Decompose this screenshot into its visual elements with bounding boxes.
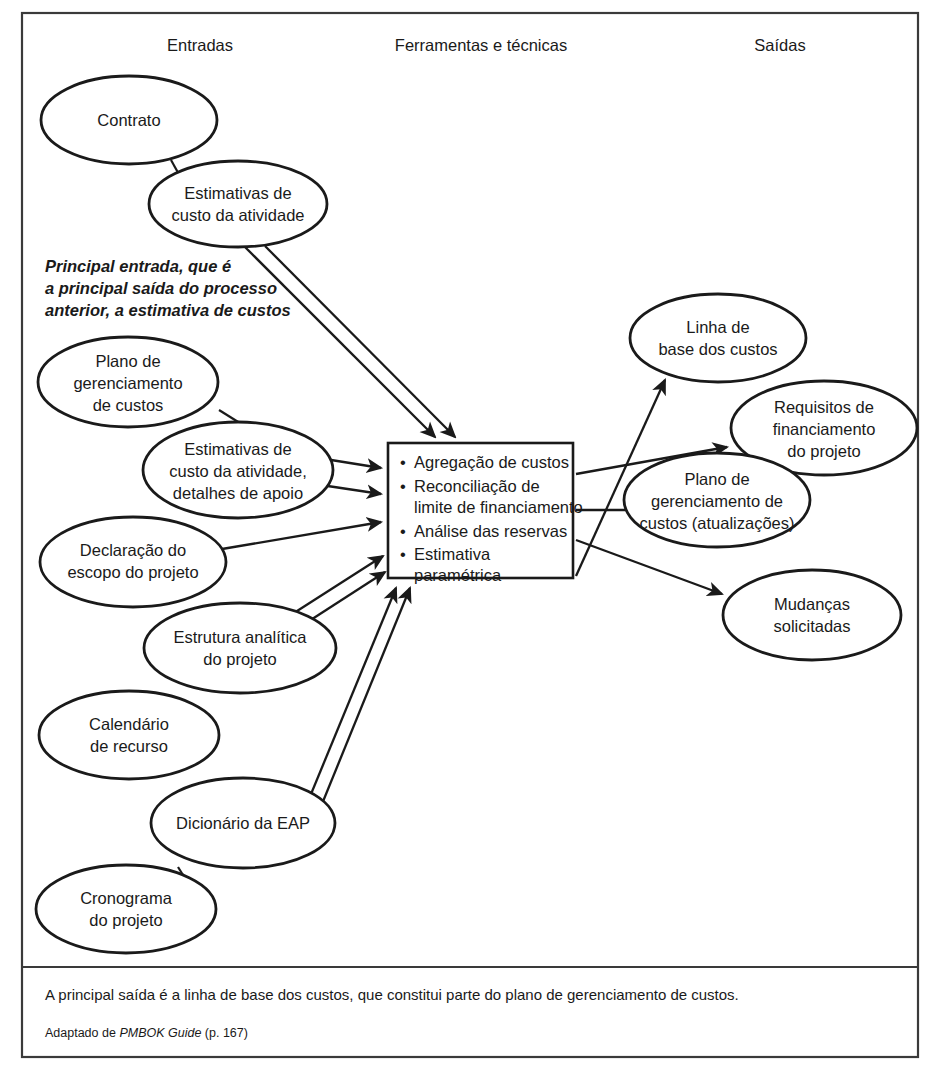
- ellipse-mudancas-solicitadas: [723, 570, 901, 660]
- annotation-line-2: a principal saída do processo: [45, 279, 277, 297]
- node-declaracao-escopo-line-2: escopo do projeto: [67, 563, 198, 581]
- node-linha-base-custos[interactable]: Linha de base dos custos: [630, 294, 806, 382]
- node-contrato-line-1: Contrato: [97, 111, 160, 129]
- footer-source-title: PMBOK Guide: [119, 1026, 201, 1040]
- ellipse-linha-base-custos: [630, 294, 806, 382]
- node-dicionario-eap-line-1: Dicionário da EAP: [176, 814, 310, 832]
- process-box[interactable]: • Agregação de custos • Reconciliação de…: [388, 443, 583, 584]
- process-flow-diagram: Entradas Ferramentas e técnicas Saídas: [0, 0, 943, 1081]
- node-linha-base-custos-line-1: Linha de: [686, 318, 749, 336]
- footer-source-suffix: (p. 167): [201, 1026, 248, 1040]
- node-plano-gerenciamento-custos-line-1: Plano de: [95, 352, 160, 370]
- node-estimativas-detalhes-apoio-line-3: detalhes de apoio: [173, 484, 303, 502]
- node-cronograma-projeto[interactable]: Cronograma do projeto: [36, 865, 216, 953]
- node-estimativas-detalhes-apoio-line-2: custo da atividade,: [169, 462, 307, 480]
- process-bullet-1-marker: •: [400, 453, 406, 471]
- process-bullet-4-line-2: paramétrica: [414, 566, 502, 584]
- node-cronograma-projeto-line-2: do projeto: [89, 911, 162, 929]
- process-bullet-2-line-1: Reconciliação de: [414, 477, 540, 495]
- footer-caption: A principal saída é a linha de base dos …: [45, 986, 739, 1003]
- process-bullet-4-marker: •: [400, 545, 406, 563]
- node-calendario-recurso-line-1: Calendário: [89, 715, 169, 733]
- node-requisitos-financiamento-line-1: Requisitos de: [774, 398, 874, 416]
- node-estimativas-custo-atividade[interactable]: Estimativas de custo da atividade: [149, 161, 327, 247]
- node-estimativas-detalhes-apoio[interactable]: Estimativas de custo da atividade, detal…: [143, 422, 333, 518]
- figure-container: Entradas Ferramentas e técnicas Saídas: [0, 0, 943, 1081]
- node-mudancas-solicitadas[interactable]: Mudanças solicitadas: [723, 570, 901, 660]
- process-bullet-3-line-1: Análise das reservas: [414, 522, 567, 540]
- node-contrato[interactable]: Contrato: [41, 76, 217, 164]
- process-bullet-2-line-2: limite de financiamento: [414, 498, 583, 516]
- footer-source: Adaptado de PMBOK Guide (p. 167): [45, 1026, 248, 1040]
- node-estimativas-detalhes-apoio-line-1: Estimativas de: [184, 440, 291, 458]
- node-calendario-recurso[interactable]: Calendário de recurso: [39, 691, 219, 779]
- annotation-line-3: anterior, a estimativa de custos: [45, 301, 291, 319]
- ellipse-calendario-recurso: [39, 691, 219, 779]
- node-cronograma-projeto-line-1: Cronograma: [80, 889, 173, 907]
- node-mudancas-solicitadas-line-1: Mudanças: [774, 595, 850, 613]
- ellipse-estimativas-custo-atividade: [149, 161, 327, 247]
- footer-source-prefix: Adaptado de: [45, 1026, 119, 1040]
- node-plano-gerenciamento-atualizacoes-line-2: gerenciamento de: [651, 492, 783, 510]
- node-requisitos-financiamento-line-2: financiamento: [773, 420, 876, 438]
- process-bullet-3-marker: •: [400, 522, 406, 540]
- process-bullet-4-line-1: Estimativa: [414, 545, 491, 563]
- annotation-line-1: Principal entrada, que é: [45, 257, 231, 275]
- column-header-ferramentas: Ferramentas e técnicas: [395, 36, 567, 54]
- node-requisitos-financiamento-line-3: do projeto: [787, 442, 860, 460]
- node-estimativas-custo-atividade-line-2: custo da atividade: [171, 206, 304, 224]
- node-estimativas-custo-atividade-line-1: Estimativas de: [184, 184, 291, 202]
- node-plano-gerenciamento-atualizacoes-line-3: custos (atualizações): [640, 514, 795, 532]
- ellipse-cronograma-projeto: [36, 865, 216, 953]
- node-declaracao-escopo-line-1: Declaração do: [80, 541, 186, 559]
- node-linha-base-custos-line-2: base dos custos: [658, 340, 777, 358]
- node-plano-gerenciamento-custos[interactable]: Plano de gerenciamento de custos: [38, 337, 218, 427]
- node-declaracao-escopo[interactable]: Declaração do escopo do projeto: [40, 517, 226, 607]
- process-bullet-2-marker: •: [400, 477, 406, 495]
- node-plano-gerenciamento-custos-line-3: de custos: [93, 396, 164, 414]
- node-dicionario-eap[interactable]: Dicionário da EAP: [151, 778, 335, 868]
- node-plano-gerenciamento-atualizacoes[interactable]: Plano de gerenciamento de custos (atuali…: [624, 453, 810, 547]
- ellipse-declaracao-escopo: [40, 517, 226, 607]
- node-plano-gerenciamento-atualizacoes-line-1: Plano de: [684, 470, 749, 488]
- node-mudancas-solicitadas-line-2: solicitadas: [773, 617, 850, 635]
- node-estrutura-analitica-line-2: do projeto: [203, 650, 276, 668]
- column-header-saidas: Saídas: [754, 36, 805, 54]
- node-calendario-recurso-line-2: de recurso: [90, 737, 168, 755]
- process-bullet-1-line-1: Agregação de custos: [414, 453, 569, 471]
- node-plano-gerenciamento-custos-line-2: gerenciamento: [73, 374, 182, 392]
- column-header-entradas: Entradas: [167, 36, 233, 54]
- node-estrutura-analitica-line-1: Estrutura analítica: [174, 628, 308, 646]
- ellipse-estrutura-analitica: [144, 603, 336, 693]
- node-estrutura-analitica[interactable]: Estrutura analítica do projeto: [144, 603, 336, 693]
